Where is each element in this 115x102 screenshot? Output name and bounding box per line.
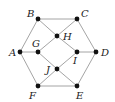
node-label-f: F xyxy=(28,90,37,101)
node-label-b: B xyxy=(26,8,34,19)
node-i xyxy=(75,50,80,55)
edge-j-e xyxy=(57,69,77,86)
graph-nodes xyxy=(18,17,99,89)
graph-labels: ABCDEFGHIJ xyxy=(8,8,109,101)
node-label-a: A xyxy=(8,47,16,58)
node-label-j: J xyxy=(44,64,51,75)
node-label-i: I xyxy=(72,55,78,66)
node-label-h: H xyxy=(62,31,72,42)
node-label-c: C xyxy=(81,8,89,19)
node-c xyxy=(75,17,80,22)
node-g xyxy=(36,50,41,55)
edge-c-d xyxy=(77,19,96,52)
node-e xyxy=(75,84,80,89)
node-b xyxy=(36,17,41,22)
node-d xyxy=(94,50,99,55)
node-f xyxy=(36,84,41,89)
node-label-g: G xyxy=(32,38,40,49)
edge-d-e xyxy=(77,52,96,86)
edge-b-h xyxy=(38,19,57,36)
graph-edges xyxy=(20,19,96,86)
graph-diagram: ABCDEFGHIJ xyxy=(0,0,115,102)
edge-f-a xyxy=(20,52,38,86)
node-h xyxy=(55,34,60,39)
node-label-d: D xyxy=(100,47,109,58)
node-j xyxy=(55,67,60,72)
edge-g-h xyxy=(38,36,57,52)
node-a xyxy=(18,50,23,55)
node-label-e: E xyxy=(75,90,84,101)
